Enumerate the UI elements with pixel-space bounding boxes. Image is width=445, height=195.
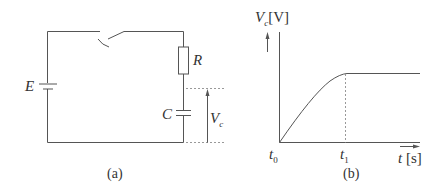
battery-label: E: [25, 79, 34, 94]
circuit: [39, 32, 191, 143]
caption-b: (b): [343, 167, 359, 181]
x-axis-label: t [s]: [398, 151, 422, 166]
switch-arc-icon: [98, 39, 109, 47]
resistor-label: R: [193, 53, 202, 68]
y-axis-label: Vc[V]: [255, 10, 289, 28]
charging-curve: [280, 74, 421, 143]
t1-label: t1: [340, 147, 349, 165]
caption-a: (a): [107, 167, 123, 181]
graph: [280, 32, 421, 143]
capacitor-label: C: [162, 107, 172, 122]
x-arrow-icon: [400, 145, 420, 149]
vc-arrow-icon: [206, 89, 210, 143]
diagram-canvas: [0, 0, 445, 195]
y-arrow-icon: [266, 32, 270, 52]
vc-label: Vc: [210, 111, 223, 129]
switch-blade: [108, 32, 124, 40]
resistor-icon: [179, 47, 189, 74]
t0-label: t0: [269, 147, 278, 165]
